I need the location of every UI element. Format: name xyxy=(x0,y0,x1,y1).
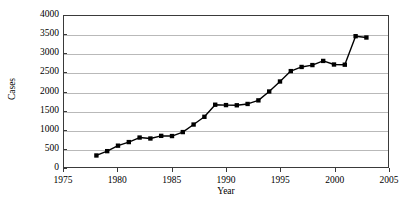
data-point-marker xyxy=(267,89,271,93)
data-point-marker xyxy=(321,59,325,63)
data-point-marker xyxy=(213,103,217,107)
data-point-marker xyxy=(191,122,195,126)
x-axis-tick-label: 1985 xyxy=(162,176,181,186)
data-point-marker xyxy=(148,136,152,140)
y-axis-tick-mark xyxy=(63,72,67,73)
y-axis-tick-label: 2500 xyxy=(40,68,59,78)
x-axis-tick-label: 1975 xyxy=(54,176,73,186)
y-axis-tick-mark xyxy=(63,130,67,131)
x-axis-tick-label: 1995 xyxy=(271,176,290,186)
data-point-marker xyxy=(343,63,347,67)
data-point-marker xyxy=(94,153,98,157)
data-point-marker xyxy=(159,134,163,138)
data-point-marker xyxy=(181,130,185,134)
data-point-marker xyxy=(364,35,368,39)
x-axis-tick-mark xyxy=(280,168,281,172)
y-axis-tick-label: 3000 xyxy=(40,49,59,59)
x-axis-tick-mark xyxy=(389,168,390,172)
data-point-marker xyxy=(224,103,228,107)
y-axis-tick-mark xyxy=(63,92,67,93)
x-axis-tick-mark xyxy=(226,168,227,172)
x-axis-tick-mark xyxy=(172,168,173,172)
data-point-marker xyxy=(278,79,282,83)
data-point-marker xyxy=(137,135,141,139)
y-axis-tick-label: 1500 xyxy=(40,106,59,116)
y-axis-tick-label: 4000 xyxy=(40,10,59,20)
y-axis-tick-mark xyxy=(63,168,67,169)
y-axis-tick-label: 0 xyxy=(54,163,59,173)
data-point-marker xyxy=(353,34,357,38)
data-point-marker xyxy=(245,102,249,106)
plot-area xyxy=(63,15,389,168)
data-point-marker xyxy=(289,69,293,73)
y-axis-tick-mark xyxy=(63,149,67,150)
data-point-marker xyxy=(170,134,174,138)
x-axis-tick-label: 2005 xyxy=(380,176,399,186)
y-axis-tick-label: 3500 xyxy=(40,29,59,39)
data-point-marker xyxy=(202,115,206,119)
data-point-marker xyxy=(332,62,336,66)
data-point-marker xyxy=(116,144,120,148)
y-axis-title: Cases xyxy=(7,59,17,119)
x-axis-tick-mark xyxy=(335,168,336,172)
data-point-marker xyxy=(310,63,314,67)
series-layer xyxy=(64,16,388,167)
chart-figure: 05001000150020002500300035004000 1975198… xyxy=(0,0,407,209)
x-axis-tick-mark xyxy=(117,168,118,172)
y-axis-tick-label: 2000 xyxy=(40,87,59,97)
data-point-marker xyxy=(127,140,131,144)
x-axis-tick-label: 2000 xyxy=(325,176,344,186)
y-axis-tick-mark xyxy=(63,53,67,54)
x-axis-tick-label: 1990 xyxy=(217,176,236,186)
y-axis-tick-mark xyxy=(63,111,67,112)
data-point-marker xyxy=(256,98,260,102)
line-series-cases xyxy=(96,36,366,155)
x-axis-tick-label: 1980 xyxy=(108,176,127,186)
data-point-marker xyxy=(299,65,303,69)
y-axis-tick-label: 500 xyxy=(45,144,59,154)
data-point-marker xyxy=(235,103,239,107)
data-point-marker xyxy=(105,149,109,153)
x-axis-title: Year xyxy=(63,186,389,196)
y-axis-tick-mark xyxy=(63,34,67,35)
y-axis-tick-mark xyxy=(63,15,67,16)
y-axis-tick-label: 1000 xyxy=(40,125,59,135)
